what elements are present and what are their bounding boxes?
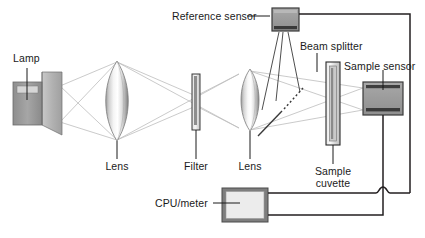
lamp-icon [13,72,62,135]
label-filter: Filter [179,160,213,172]
label-lamp: Lamp [13,52,40,64]
label-reference-sensor: Reference sensor [172,10,256,22]
cpu-meter-icon [222,188,268,222]
label-sample-sensor: Sample sensor [344,60,415,72]
lens-1-icon [106,61,129,141]
label-lens-2: Lens [233,160,267,172]
label-beam-splitter: Beam splitter [300,40,363,52]
sample-cuvette-icon [326,62,340,145]
optical-diagram: Lamp Lens Filter Lens Reference sensor B… [0,0,425,238]
label-sample-cuvette-line-1: Sample [310,165,356,177]
label-sample-cuvette-line-2: cuvette [310,177,356,189]
diagram-canvas [0,0,425,238]
lens-2-icon [241,69,259,131]
label-cpu-meter: CPU/meter [155,197,208,209]
label-lens-1: Lens [100,160,134,172]
reference-sensor-icon [272,8,299,31]
beam-splitter-icon [258,88,303,136]
filter-icon [192,74,200,130]
